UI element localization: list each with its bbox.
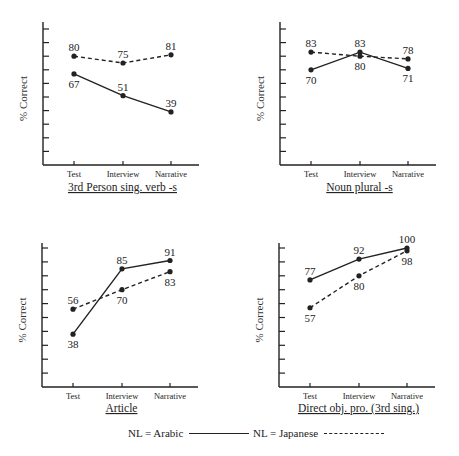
chart-title: 3rd Person sing. verb -s <box>68 181 177 194</box>
data-label: 80 <box>69 41 81 53</box>
data-label: 70 <box>117 294 129 306</box>
legend-item-japanese: NL = Japanese <box>253 427 384 439</box>
x-tick-label: Narrative <box>392 169 424 179</box>
data-point <box>70 307 75 312</box>
chart-panel-1: TestInterviewNarrative% Correct3rd Perso… <box>17 22 199 194</box>
data-label: 98 <box>402 255 414 267</box>
chart-title: Article <box>106 402 138 414</box>
y-axis-label: % Correct <box>16 298 28 343</box>
chart-panel-3: TestInterviewNarrative% CorrectArticle38… <box>16 243 198 414</box>
data-label: 92 <box>354 244 365 256</box>
data-point <box>356 273 361 278</box>
x-tick-label: Test <box>67 169 82 179</box>
data-label: 78 <box>403 44 415 56</box>
series-arabic-line <box>74 74 171 112</box>
y-axis-label: % Correct <box>17 76 29 121</box>
data-point <box>168 52 173 57</box>
data-label: 91 <box>165 246 176 258</box>
data-label: 83 <box>165 276 177 288</box>
x-tick-label: Test <box>66 391 81 401</box>
data-label: 77 <box>305 265 317 277</box>
data-point <box>119 287 124 292</box>
data-label: 51 <box>118 81 129 93</box>
legend-item-arabic: NL = Arabic <box>128 427 249 439</box>
data-point <box>71 54 76 59</box>
chart-grid: TestInterviewNarrative% Correct3rd Perso… <box>0 0 459 456</box>
chart-panel-4: TestInterviewNarrative% CorrectDirect ob… <box>253 233 435 415</box>
data-point <box>307 277 312 282</box>
chart-title: Noun plural -s <box>326 181 393 194</box>
x-tick-label: Narrative <box>391 391 423 401</box>
x-tick-label: Narrative <box>154 391 186 401</box>
data-point <box>167 258 172 263</box>
x-tick-label: Interview <box>343 391 376 401</box>
chart-title: Direct obj. pro. (3rd sing.) <box>298 402 419 415</box>
data-point <box>120 60 125 65</box>
data-point <box>168 109 173 114</box>
data-label: 80 <box>354 280 366 292</box>
data-label: 57 <box>305 312 317 324</box>
solid-line-icon <box>189 433 249 434</box>
y-axis-label: % Correct <box>253 298 265 343</box>
x-tick-label: Test <box>303 391 318 401</box>
data-label: 83 <box>306 37 318 49</box>
data-label: 83 <box>355 37 367 49</box>
x-tick-label: Interview <box>106 391 139 401</box>
data-label: 38 <box>68 338 80 350</box>
data-point <box>71 71 76 76</box>
x-tick-label: Interview <box>107 169 140 179</box>
chart-panel-2: TestInterviewNarrative% CorrectNoun plur… <box>254 22 436 194</box>
data-point <box>307 305 312 310</box>
data-label: 70 <box>306 74 318 86</box>
legend-label-arabic: NL = Arabic <box>128 427 183 439</box>
data-point <box>356 257 361 262</box>
data-label: 67 <box>69 78 81 90</box>
data-point <box>308 50 313 55</box>
data-label: 80 <box>355 60 367 72</box>
data-label: 75 <box>118 48 130 60</box>
data-label: 39 <box>166 97 178 109</box>
data-label: 81 <box>166 40 177 52</box>
x-tick-label: Test <box>304 169 319 179</box>
data-point <box>357 54 362 59</box>
data-label: 100 <box>399 233 416 245</box>
data-label: 71 <box>403 72 414 84</box>
data-point <box>404 248 409 253</box>
data-point <box>120 93 125 98</box>
data-point <box>70 332 75 337</box>
data-point <box>308 67 313 72</box>
y-axis-label: % Correct <box>254 76 266 121</box>
data-point <box>167 269 172 274</box>
data-point <box>119 266 124 271</box>
x-tick-label: Interview <box>344 169 377 179</box>
dashed-line-icon <box>324 433 384 434</box>
data-point <box>405 66 410 71</box>
data-point <box>405 56 410 61</box>
data-label: 85 <box>117 254 129 266</box>
data-label: 56 <box>68 294 80 306</box>
x-tick-label: Narrative <box>155 169 187 179</box>
legend-label-japanese: NL = Japanese <box>253 427 318 439</box>
